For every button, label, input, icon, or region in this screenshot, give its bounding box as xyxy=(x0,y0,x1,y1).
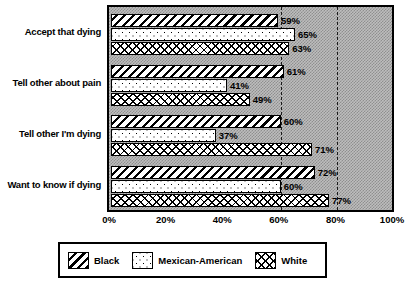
x-tick-label: 40% xyxy=(213,214,232,225)
legend-item: Black xyxy=(68,252,119,269)
bar xyxy=(111,42,289,55)
legend-label: Black xyxy=(94,255,119,266)
bar xyxy=(111,115,281,128)
category-axis-labels: Accept that dyingTell other about painTe… xyxy=(0,5,104,212)
chart-legend: BlackMexican-AmericanWhite xyxy=(58,242,327,278)
bar-value-label: 37% xyxy=(219,129,238,142)
category-label: Accept that dying xyxy=(25,26,101,37)
legend-swatch-cross-hatch xyxy=(255,252,276,269)
x-tick-label: 0% xyxy=(102,214,116,225)
bar xyxy=(111,180,281,193)
bar xyxy=(111,65,284,78)
bar-value-label: 71% xyxy=(315,143,334,156)
category-label: Tell other I'm dying xyxy=(19,128,101,139)
x-tick-label: 100% xyxy=(380,214,404,225)
bar-value-label: 60% xyxy=(284,180,303,193)
bar xyxy=(111,194,329,207)
legend-label: Mexican-American xyxy=(158,255,242,266)
bar-value-label: 72% xyxy=(318,166,337,179)
x-tick-label: 60% xyxy=(269,214,288,225)
legend-label: White xyxy=(281,255,307,266)
bar-value-label: 41% xyxy=(230,79,249,92)
x-axis-tick-labels: 0%20%40%60%80%100% xyxy=(107,214,394,228)
legend-swatch-diagonal-stripes xyxy=(68,252,89,269)
x-tick-label: 20% xyxy=(156,214,175,225)
bar-value-label: 77% xyxy=(332,194,351,207)
category-label: Tell other about pain xyxy=(12,77,101,88)
legend-item: White xyxy=(255,252,307,269)
plot-inner: 59%65%63%61%41%49%60%37%71%72%60%77% xyxy=(109,7,392,210)
bar-value-label: 63% xyxy=(292,42,311,55)
bar xyxy=(111,28,295,41)
bar xyxy=(111,129,216,142)
bar-value-label: 49% xyxy=(253,93,272,106)
legend-item: Mexican-American xyxy=(132,252,242,269)
legend-swatch-dots xyxy=(132,252,153,269)
bar xyxy=(111,93,250,106)
plot-area: 59%65%63%61%41%49%60%37%71%72%60%77% xyxy=(107,5,394,212)
bar xyxy=(111,143,312,156)
gridline-80 xyxy=(337,7,338,210)
x-tick-label: 80% xyxy=(326,214,345,225)
category-label: Want to know if dying xyxy=(7,179,101,190)
bar-value-label: 65% xyxy=(298,28,317,41)
bar xyxy=(111,166,315,179)
bar xyxy=(111,79,227,92)
bar-chart: Accept that dyingTell other about painTe… xyxy=(0,0,411,284)
bar-value-label: 59% xyxy=(281,14,300,27)
bar-value-label: 60% xyxy=(284,115,303,128)
bar-value-label: 61% xyxy=(287,65,306,78)
bar xyxy=(111,14,278,27)
